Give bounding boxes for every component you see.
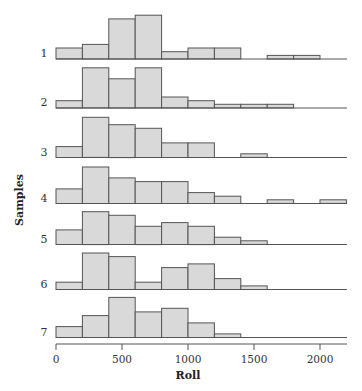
histogram-bar <box>109 215 135 244</box>
histogram-bar <box>214 104 240 108</box>
histogram-bar <box>109 19 135 59</box>
histogram-bar <box>135 15 161 59</box>
histogram-bar <box>214 48 240 59</box>
histogram-panel-sample-2: 2 <box>41 68 348 109</box>
histogram-bar <box>82 117 108 157</box>
histogram-bar <box>162 182 188 204</box>
sample-label: 2 <box>41 96 48 109</box>
histogram-bar <box>162 97 188 108</box>
histogram-bar <box>82 44 108 59</box>
histogram-bar <box>135 226 161 244</box>
histogram-bar <box>109 125 135 158</box>
histogram-bar <box>214 279 240 290</box>
histogram-bar <box>109 79 135 108</box>
histogram-panel-sample-7: 7 <box>41 297 348 338</box>
histogram-bar <box>162 223 188 245</box>
x-axis: 0500100015002000 <box>53 344 347 365</box>
histogram-chart: 1234567 0500100015002000 Roll Samples <box>0 0 362 391</box>
histogram-bar <box>188 226 214 244</box>
histogram-bar <box>241 104 267 108</box>
histogram-bar <box>135 182 161 204</box>
sample-label: 4 <box>41 192 48 205</box>
histogram-bar <box>82 212 108 245</box>
histogram-bar <box>241 286 267 290</box>
x-tick-label: 1000 <box>175 353 202 365</box>
histogram-bar <box>214 196 240 203</box>
histogram-bar <box>267 200 293 204</box>
x-tick-label: 1500 <box>241 353 268 365</box>
x-axis-ticks: 0500100015002000 <box>53 344 334 365</box>
histogram-bar <box>188 193 214 204</box>
histogram-bar <box>109 178 135 204</box>
histogram-bar <box>188 48 214 59</box>
histogram-bar <box>82 167 108 204</box>
histogram-bar <box>135 282 161 289</box>
histogram-bar <box>188 101 214 108</box>
sample-label: 7 <box>41 326 48 339</box>
histogram-bar <box>241 154 267 158</box>
histogram-bar <box>162 143 188 158</box>
histogram-bar <box>135 128 161 157</box>
histogram-panel-sample-5: 5 <box>41 212 348 246</box>
histogram-bar <box>294 55 320 59</box>
histogram-bar <box>162 308 188 337</box>
histogram-bar <box>109 297 135 337</box>
histogram-bar <box>56 48 82 59</box>
x-axis-title: Roll <box>176 369 201 382</box>
sample-label: 5 <box>41 233 48 246</box>
histogram-bar <box>135 68 161 108</box>
histogram-bar <box>56 101 82 108</box>
y-axis-title: Samples <box>13 174 26 226</box>
histogram-bar <box>188 143 214 158</box>
x-tick-label: 2000 <box>307 353 334 365</box>
sample-label: 6 <box>41 278 48 291</box>
histogram-bar <box>56 189 82 204</box>
histogram-panel-sample-4: 4 <box>41 167 348 205</box>
histogram-panel-sample-1: 1 <box>41 15 348 60</box>
histogram-bar <box>162 268 188 290</box>
histogram-panel-sample-6: 6 <box>41 253 348 291</box>
histogram-bar <box>135 312 161 338</box>
histogram-bar <box>109 257 135 290</box>
histogram-bar <box>267 104 293 108</box>
histogram-panel-sample-3: 3 <box>41 117 348 158</box>
histogram-bar <box>56 147 82 158</box>
histogram-bar <box>56 230 82 245</box>
sample-label: 3 <box>41 146 48 159</box>
histogram-bar <box>56 327 82 338</box>
histogram-bar <box>188 264 214 290</box>
histogram-bar <box>320 200 346 204</box>
histogram-bar <box>214 334 240 338</box>
sample-label: 1 <box>41 47 48 60</box>
histogram-bar <box>214 237 240 244</box>
histogram-bar <box>162 52 188 59</box>
x-tick-label: 0 <box>53 353 60 365</box>
histogram-bar <box>267 55 293 59</box>
histogram-bar <box>82 316 108 338</box>
x-tick-label: 500 <box>112 353 132 365</box>
histogram-bar <box>188 323 214 338</box>
histogram-bar <box>241 241 267 245</box>
histogram-panels: 1234567 <box>41 15 348 338</box>
histogram-bar <box>82 68 108 108</box>
histogram-bar <box>56 282 82 289</box>
histogram-bar <box>82 253 108 290</box>
